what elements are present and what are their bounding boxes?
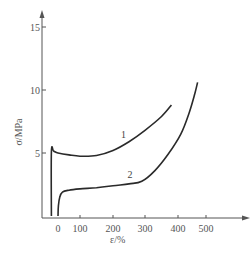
y-axis-label: σ/MPa xyxy=(13,118,24,146)
y-tick-label: 10 xyxy=(30,85,40,96)
x-tick-label: 0 xyxy=(56,223,61,234)
y-ticks: 51015 xyxy=(30,22,46,159)
x-axis-arrow-icon xyxy=(242,216,250,221)
x-tick-label: 100 xyxy=(73,223,88,234)
x-tick-label: 400 xyxy=(171,223,186,234)
y-tick-label: 5 xyxy=(35,148,40,159)
curve-1 xyxy=(51,105,171,216)
y-axis-arrow-icon xyxy=(40,10,45,18)
axes xyxy=(40,10,251,221)
x-tick-label: 500 xyxy=(199,223,214,234)
stress-strain-chart: 51015 0100200300400500 1 2 ε/% σ/MPa xyxy=(0,0,250,254)
curve-2 xyxy=(58,82,198,216)
x-tick-label: 200 xyxy=(106,223,121,234)
x-axis-label: ε/% xyxy=(110,234,125,245)
curve-label-2: 2 xyxy=(127,169,132,180)
curves xyxy=(51,82,197,216)
curve-label-1: 1 xyxy=(121,129,126,140)
x-tick-label: 300 xyxy=(138,223,153,234)
y-tick-label: 15 xyxy=(30,22,40,33)
